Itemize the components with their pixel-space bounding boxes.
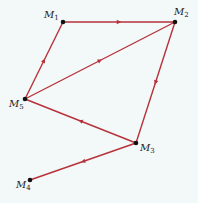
- edges-group: [25, 20, 175, 180]
- arrowhead-icon: [154, 80, 158, 85]
- node-label-m2: M2: [173, 6, 189, 19]
- node-m3: [134, 141, 139, 146]
- node-m2: [173, 20, 178, 25]
- node-label-m5: M5: [8, 98, 24, 111]
- arrowhead-icon: [81, 159, 86, 163]
- directed-graph: M1M2M3M4M5: [0, 0, 198, 203]
- arrowhead-icon: [117, 20, 122, 24]
- node-m5: [23, 97, 28, 102]
- nodes-group: M1M2M3M4M5: [8, 6, 189, 192]
- node-m4: [28, 178, 33, 183]
- node-label-m3: M3: [139, 142, 155, 155]
- node-m1: [61, 20, 66, 25]
- node-label-m1: M1: [43, 9, 59, 22]
